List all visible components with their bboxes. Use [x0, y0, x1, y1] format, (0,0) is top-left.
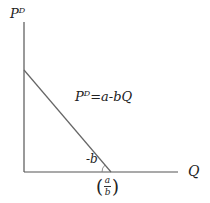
curve-equation-label: PD=a-bQ: [75, 90, 132, 103]
demand-curve: [24, 70, 111, 172]
x-axis-label: Q: [188, 164, 199, 178]
y-axis-label-sup: D: [19, 6, 25, 15]
slope-label-text: -b: [86, 152, 98, 166]
x-intercept-label: ( a b ): [96, 176, 119, 197]
fraction: a b: [104, 176, 111, 197]
curve-label-p: P: [75, 89, 84, 104]
x-axis-label-text: Q: [188, 163, 199, 179]
fraction-numerator: a: [105, 176, 110, 185]
y-axis-label: PD: [10, 7, 25, 20]
open-paren: (: [96, 178, 103, 196]
fraction-denominator: b: [105, 188, 111, 197]
close-paren: ): [112, 178, 119, 196]
curve-equation-text: =a-bQ: [90, 89, 132, 104]
slope-label: -b: [86, 153, 98, 165]
y-axis-label-text: P: [10, 6, 19, 21]
slope-angle-arc: [102, 165, 105, 172]
